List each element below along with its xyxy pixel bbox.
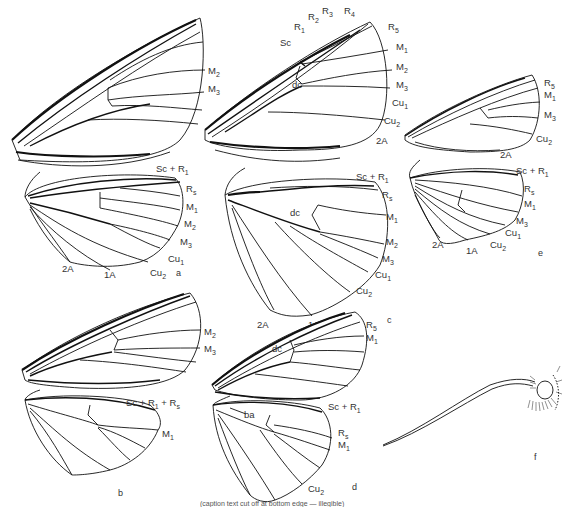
label-a-hw-M3: M3 <box>180 236 192 249</box>
forewing-a <box>12 18 205 166</box>
label-e-fw-M3: M3 <box>544 109 556 122</box>
proboscis <box>383 379 535 445</box>
label-d-hw-M1: M1 <box>338 439 350 452</box>
label-a-hw-Cu1: Cu1 <box>168 253 184 266</box>
label-c-fw-R1: R1 <box>294 21 305 34</box>
forewing-c <box>205 22 392 161</box>
label-d-fw-dc: dc <box>272 343 282 354</box>
label-c-fw-Cu2: Cu2 <box>384 115 400 128</box>
label-c-fw-R3: R3 <box>322 5 333 18</box>
label-c-fw-dc: dc <box>292 79 302 90</box>
label-d-hw-ba: ba <box>244 409 255 420</box>
panel-b: M2 M3 Sc + R1 + Rs M1 b <box>22 293 216 498</box>
label-c-fw-R5: R5 <box>388 21 399 34</box>
panel-c: Sc R1 R2 R3 R4 R5 M1 M2 M3 Cu1 Cu2 2A dc <box>205 5 408 330</box>
label-a-hw-2A: 2A <box>62 263 74 274</box>
panel-letter-d: d <box>352 482 357 492</box>
label-a-fw-M3: M3 <box>208 83 220 96</box>
label-b-fw-M2: M2 <box>204 326 216 339</box>
label-c-fw-R4: R4 <box>344 5 355 18</box>
label-e-fw-Cu2: Cu2 <box>536 133 552 146</box>
label-b-hw-M1: M1 <box>162 428 174 441</box>
label-a-hw-ScR1: Sc + R1 <box>156 163 189 176</box>
label-b-fw-M3: M3 <box>204 343 216 356</box>
forewing-e <box>405 75 540 152</box>
panel-letter-f: f <box>534 452 537 462</box>
figure-caption: (caption text cut off at bottom edge — i… <box>200 500 570 507</box>
label-c-hw-M3: M3 <box>382 253 394 266</box>
label-c-fw-M2: M2 <box>396 61 408 74</box>
label-e-hw-Cu1: Cu1 <box>505 227 521 240</box>
label-a-hw-M2: M2 <box>184 218 196 231</box>
label-a-hw-Cu2: Cu2 <box>150 267 166 280</box>
hindwing-a <box>25 172 183 270</box>
panel-letter-e: e <box>538 248 543 258</box>
label-c-fw-2A: 2A <box>376 135 388 146</box>
label-c-hw-Cu1: Cu1 <box>375 269 391 282</box>
label-c-hw-dc: dc <box>290 207 300 218</box>
label-a-hw-Rs: Rs <box>186 183 197 196</box>
label-c-hw-Cu2: Cu2 <box>356 285 372 298</box>
forewing-b <box>22 293 201 388</box>
label-c-fw-R2: R2 <box>308 11 319 24</box>
label-e-hw-Cu2: Cu2 <box>490 239 506 252</box>
label-a-hw-M1: M1 <box>186 201 198 214</box>
label-d-hw-ScR1: Sc + R1 <box>328 401 361 414</box>
label-e-fw-M1: M1 <box>544 89 556 102</box>
panel-a: M2 M3 Sc + R1 Rs M1 M2 M3 Cu1 Cu2 1A 2A … <box>12 18 220 280</box>
label-e-hw-Rs: Rs <box>524 183 535 196</box>
label-c-fw-M1: M1 <box>396 41 408 54</box>
label-c-fw-M3: M3 <box>396 79 408 92</box>
forewing-d <box>212 312 367 400</box>
label-e-hw-M1: M1 <box>524 198 536 211</box>
panel-letter-b: b <box>118 488 123 498</box>
label-e-hw-1A: 1A <box>466 245 478 256</box>
panel-letter-a: a <box>176 268 181 278</box>
label-d-fw-M1: M1 <box>366 332 378 345</box>
label-e-hw-M3: M3 <box>516 215 528 228</box>
label-e-hw-2A: 2A <box>432 239 444 250</box>
panel-f: f <box>383 366 562 462</box>
panel-letter-c: c <box>387 315 392 325</box>
label-c-fw-Cu1: Cu1 <box>392 97 408 110</box>
label-c-fw-Sc: Sc <box>280 37 291 48</box>
panel-d: R5 M1 dc Sc + R1 ba Rs M1 Cu2 d <box>212 312 378 502</box>
label-c-hw-M2: M2 <box>386 236 398 249</box>
label-d-fw-R5: R5 <box>366 319 377 332</box>
label-a-fw-M2: M2 <box>208 65 220 78</box>
panel-e: R5 M1 M3 Cu2 2A Sc + R1 Rs M1 M3 Cu1 Cu2… <box>405 75 556 258</box>
label-a-hw-1A: 1A <box>104 269 116 280</box>
compound-eye <box>537 381 553 399</box>
label-e-fw-2A: 2A <box>500 149 512 160</box>
wing-venation-figure: M2 M3 Sc + R1 Rs M1 M2 M3 Cu1 Cu2 1A 2A … <box>0 0 570 510</box>
label-c-hw-2A: 2A <box>257 319 269 330</box>
label-d-hw-Cu2: Cu2 <box>308 483 324 496</box>
